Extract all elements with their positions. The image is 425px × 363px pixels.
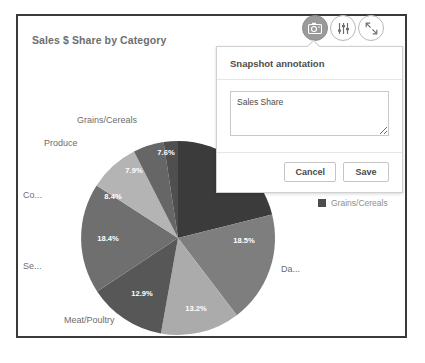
pie-value-label-grains-cereals: 7.6% [157, 148, 175, 157]
pie-slice-dairy-products[interactable] [178, 214, 275, 315]
chart-toolbar [302, 15, 384, 41]
pie-slice-grains-cereals[interactable] [164, 141, 179, 238]
pie-value-label-meat-poultry: 12.9% [131, 289, 153, 298]
options-button[interactable] [330, 15, 356, 41]
expand-arrows-icon [365, 22, 378, 35]
chart-legend: Grains/Cereals [318, 198, 388, 208]
sliders-icon [337, 22, 350, 35]
pie-value-label-condiments: 8.4% [104, 192, 122, 201]
annotation-input[interactable] [230, 91, 389, 136]
page-title: Sales $ Share by Category [32, 34, 166, 46]
snapshot-annotation-dialog: Snapshot annotation Cancel Save [216, 46, 403, 193]
dialog-body [217, 80, 402, 153]
pie-value-label-dairy-products: 18.5% [233, 236, 255, 245]
pie-category-label-dairy-products: Da... [281, 264, 300, 274]
save-button[interactable]: Save [343, 162, 389, 182]
pie-slice-condiments[interactable] [97, 152, 178, 238]
dialog-header: Snapshot annotation [217, 47, 402, 80]
pie-value-label-confections: 13.2% [185, 304, 207, 313]
dialog-pointer-arrow [307, 40, 320, 47]
snapshot-button[interactable] [302, 15, 328, 41]
pie-slice-meat-poultry[interactable] [97, 238, 178, 334]
pie-value-label-produce: 7.9% [125, 166, 143, 175]
pie-slice-seafood[interactable] [81, 185, 178, 291]
pie-slice-produce[interactable] [134, 142, 178, 238]
pie-value-label-seafood: 18.4% [97, 234, 119, 243]
legend-label-grains-cereals: Grains/Cereals [331, 198, 388, 208]
pie-category-label-seafood: Se... [23, 261, 42, 271]
legend-swatch-grains-cereals [318, 199, 326, 207]
pie-category-label-condiments: Co... [23, 190, 42, 200]
pie-category-label-grains-cereals: Grains/Cereals [77, 115, 137, 125]
fullscreen-button[interactable] [358, 15, 384, 41]
pie-category-label-meat-poultry: Meat/Poultry [64, 315, 115, 325]
dialog-title: Snapshot annotation [230, 58, 389, 69]
pie-slice-confections[interactable] [161, 238, 237, 335]
camera-icon [308, 22, 322, 34]
cancel-button[interactable]: Cancel [284, 162, 336, 182]
screenshot-root: Sales $ Share by Category [0, 0, 425, 363]
pie-category-label-produce: Produce [44, 138, 78, 148]
dialog-footer: Cancel Save [217, 153, 402, 192]
